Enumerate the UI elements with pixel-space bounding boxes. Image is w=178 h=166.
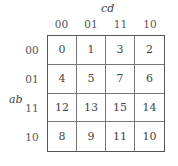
kmap-cell: 10 xyxy=(135,122,164,151)
column-header: 11 xyxy=(106,18,135,30)
kmap-cell: 8 xyxy=(48,122,77,151)
kmap-cell: 13 xyxy=(77,94,106,123)
kmap-cell: 9 xyxy=(77,122,106,151)
column-header: 10 xyxy=(136,18,165,30)
row-header: 01 xyxy=(20,73,44,85)
kmap-cell: 4 xyxy=(48,65,77,94)
kmap-cell: 7 xyxy=(106,65,135,94)
column-variable-label: cd xyxy=(101,2,114,15)
kmap-cell: 1 xyxy=(77,36,106,65)
kmap-cell: 0 xyxy=(48,36,77,65)
kmap-cell: 14 xyxy=(135,94,164,123)
row-header: 00 xyxy=(20,44,44,56)
kmap-cell: 11 xyxy=(106,122,135,151)
kmap-cell: 12 xyxy=(48,94,77,123)
row-header: 11 xyxy=(20,102,44,114)
row-header: 10 xyxy=(20,131,44,143)
kmap-cell: 2 xyxy=(135,36,164,65)
kmap-cell: 6 xyxy=(135,65,164,94)
column-header: 01 xyxy=(77,18,106,30)
kmap-cell: 15 xyxy=(106,94,135,123)
kmap-grid: 0 1 3 2 4 5 7 6 12 13 15 14 8 9 11 10 xyxy=(47,35,165,152)
kmap-cell: 5 xyxy=(77,65,106,94)
kmap-cell: 3 xyxy=(106,36,135,65)
column-header: 00 xyxy=(47,18,76,30)
